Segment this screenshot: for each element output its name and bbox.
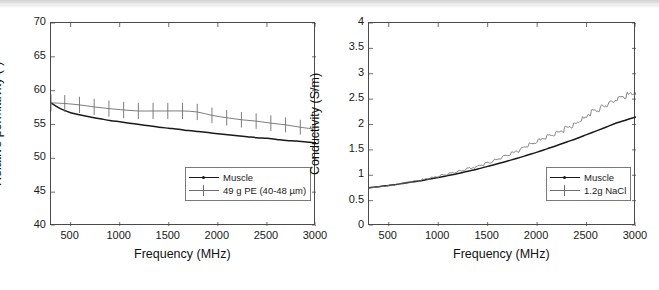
x-axis-title-conductivity: Frequency (MHz) (453, 247, 550, 261)
x-axis-title-permittivity: Frequency (MHz) (134, 247, 231, 261)
series-line-49-g-pe-40-48-m- (51, 103, 315, 129)
chart-panel-conductivity: 00.511.522.533.54 5001000150020002500300… (330, 0, 659, 290)
y-tick-label: 2 (322, 118, 364, 129)
legend-item-muscle[interactable]: Muscle (550, 171, 626, 184)
legend-label-muscle: Muscle (223, 171, 253, 184)
y-tick-label: 1.5 (322, 143, 364, 154)
y-axis-title-conductivity: Conductivity (S/m) (308, 72, 322, 174)
y-tick-label: 0 (322, 219, 364, 230)
x-tick-label: 2000 (511, 230, 561, 241)
y-tick-label: 50 (4, 151, 46, 162)
y-tick-label: 65 (4, 50, 46, 61)
y-tick-label: 1 (322, 168, 364, 179)
legend-label-muscle: Muscle (584, 171, 614, 184)
x-tick-label: 1500 (462, 230, 512, 241)
y-tick-label: 55 (4, 118, 46, 129)
x-tick-label: 1000 (412, 230, 462, 241)
y-tick-label: 0.5 (322, 194, 364, 205)
x-tick-label: 500 (363, 230, 413, 241)
legend-item-muscle[interactable]: Muscle (189, 171, 306, 184)
y-tick-label: 3.5 (322, 41, 364, 52)
y-axis-title-permittivity: Relative permittivity (-) (0, 61, 4, 185)
y-tick-label: 60 (4, 84, 46, 95)
x-tick-label: 2000 (192, 230, 242, 241)
x-tick-label: 2500 (241, 230, 291, 241)
x-tick-label: 3000 (610, 230, 659, 241)
y-tick-label: 40 (4, 219, 46, 230)
legend-conductivity[interactable]: Muscle 1.2g NaCl (546, 167, 631, 201)
x-tick-label: 500 (45, 230, 95, 241)
y-tick-label: 45 (4, 185, 46, 196)
legend-permittivity[interactable]: Muscle 49 g PE (40-48 µm) (185, 167, 311, 201)
error-bars (51, 94, 315, 137)
legend-item-sample[interactable]: 1.2g NaCl (550, 184, 626, 197)
legend-line-sample-muscle-icon (189, 171, 219, 184)
legend-errorbar-sample-icon (189, 184, 219, 197)
y-tick-label: 3 (322, 67, 364, 78)
x-tick-label: 1500 (143, 230, 193, 241)
legend-item-sample[interactable]: 49 g PE (40-48 µm) (189, 184, 306, 197)
x-tick-label: 1000 (94, 230, 144, 241)
legend-line-sample-muscle-icon (550, 171, 580, 184)
y-tick-label: 2.5 (322, 92, 364, 103)
chart-panel-permittivity: 40455055606570 50010001500200025003000 R… (0, 0, 330, 290)
x-tick-label: 2500 (561, 230, 611, 241)
y-tick-label: 70 (4, 16, 46, 27)
legend-label-sample: 1.2g NaCl (584, 184, 626, 197)
legend-errorbar-sample-icon (550, 184, 580, 197)
series-line-muscle (51, 103, 316, 143)
y-tick-label: 4 (322, 16, 364, 27)
legend-label-sample: 49 g PE (40-48 µm) (223, 184, 306, 197)
